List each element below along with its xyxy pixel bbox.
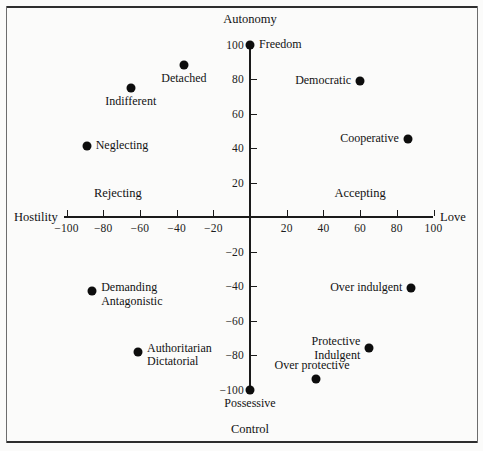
data-point-label-line: Detached	[161, 72, 206, 86]
x-axis-tick	[67, 210, 68, 216]
axis-name-control: Control	[231, 422, 269, 437]
y-axis-tick-label: 100	[200, 39, 244, 51]
y-axis-tick	[251, 114, 257, 115]
y-axis-tick-label: 60	[200, 108, 244, 120]
x-axis-tick-label: −100	[54, 222, 79, 234]
scatter-plot-figure: −100−80−60−40−202040608010010080604020−2…	[0, 0, 483, 451]
data-point-label: Indifferent	[105, 95, 156, 109]
data-point-marker[interactable]	[246, 385, 255, 394]
y-axis-tick	[251, 79, 257, 80]
y-axis-tick	[251, 286, 257, 287]
x-axis-tick	[140, 210, 141, 216]
data-point-marker[interactable]	[126, 83, 135, 92]
data-point-label: AuthoritarianDictatorial	[147, 341, 212, 368]
axis-name-love: Love	[440, 210, 466, 225]
x-axis-tick	[213, 210, 214, 216]
y-axis-tick-label: 20	[200, 177, 244, 189]
y-axis-tick-label: −60	[200, 315, 244, 327]
y-axis-tick	[251, 183, 257, 184]
x-axis-tick-label: 20	[281, 222, 293, 234]
y-axis-tick-label: −40	[200, 280, 244, 292]
quadrant-label-accepting: Accepting	[334, 185, 385, 200]
x-axis-tick-label: 60	[354, 222, 366, 234]
y-axis-tick-label: 40	[200, 142, 244, 154]
x-axis-tick	[323, 210, 324, 216]
data-point-label-line: Over indulgent	[330, 281, 402, 295]
y-axis-tick	[251, 321, 257, 322]
x-axis-tick	[360, 210, 361, 216]
x-axis-tick-label: 80	[391, 222, 403, 234]
x-axis-tick	[177, 210, 178, 216]
x-axis-tick-label: −40	[167, 222, 186, 234]
data-point-label-line: Cooperative	[340, 133, 399, 147]
data-point-label: Cooperative	[340, 133, 399, 147]
data-point-marker[interactable]	[134, 347, 143, 356]
data-point-label-line: Indifferent	[105, 95, 156, 109]
data-point-marker[interactable]	[312, 375, 321, 384]
quadrant-label-rejecting: Rejecting	[94, 185, 142, 200]
data-point-marker[interactable]	[82, 142, 91, 151]
data-point-label-line: Dictatorial	[147, 355, 212, 369]
data-point-label-line: Over protective	[275, 359, 350, 373]
data-point-label-line: Democratic	[295, 74, 351, 88]
data-point-marker[interactable]	[179, 61, 188, 70]
y-axis-tick	[251, 252, 257, 253]
data-point-label: DemandingAntagonistic	[101, 281, 162, 308]
x-axis-tick	[287, 210, 288, 216]
y-axis-tick-label: −20	[200, 246, 244, 258]
axis-name-hostility: Hostility	[14, 210, 58, 225]
data-point-label: Possessive	[224, 397, 275, 411]
axis-name-autonomy: Autonomy	[223, 12, 276, 27]
x-axis-tick-label: −80	[94, 222, 113, 234]
data-point-marker[interactable]	[403, 135, 412, 144]
data-point-label-line: Neglecting	[96, 140, 149, 154]
y-axis-line	[249, 44, 251, 391]
x-axis-tick-label: 40	[317, 222, 329, 234]
y-axis-tick	[251, 355, 257, 356]
x-axis-tick-label: −60	[131, 222, 150, 234]
data-point-label: Detached	[161, 72, 206, 86]
data-point-label: Neglecting	[96, 140, 149, 154]
data-point-label-line: Authoritarian	[147, 341, 212, 355]
data-point-marker[interactable]	[365, 344, 374, 353]
data-point-label-line: Freedom	[259, 38, 302, 52]
data-point-label-line: Demanding	[101, 281, 162, 295]
data-point-marker[interactable]	[407, 283, 416, 292]
data-point-label: Freedom	[259, 38, 302, 52]
y-axis-tick-label: −100	[200, 384, 244, 396]
data-point-label: Over protective	[275, 359, 350, 373]
data-point-label-line: Possessive	[224, 397, 275, 411]
x-axis-tick	[397, 210, 398, 216]
y-axis-tick	[251, 148, 257, 149]
data-point-label-line: Antagonistic	[101, 294, 162, 308]
x-axis-tick-label: −20	[204, 222, 223, 234]
data-point-label-line: Protective	[312, 335, 361, 349]
data-point-label: Over indulgent	[330, 281, 402, 295]
y-axis-tick-label: 80	[200, 73, 244, 85]
x-axis-tick	[434, 210, 435, 216]
data-point-marker[interactable]	[88, 287, 97, 296]
data-point-marker[interactable]	[356, 76, 365, 85]
plot-area: −100−80−60−40−202040608010010080604020−2…	[0, 0, 483, 451]
data-point-marker[interactable]	[246, 40, 255, 49]
data-point-label: Democratic	[295, 74, 351, 88]
x-axis-tick	[103, 210, 104, 216]
